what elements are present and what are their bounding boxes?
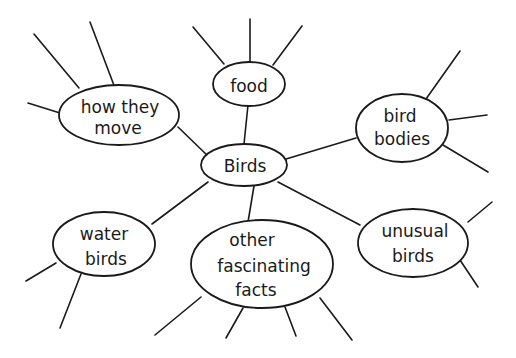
node-food: food bbox=[213, 62, 285, 106]
node-label-line: birds bbox=[392, 246, 434, 266]
edge-other-facts bbox=[248, 186, 254, 222]
node-label-line: unusual bbox=[381, 221, 448, 241]
node-unusual-birds: unusual birds bbox=[358, 209, 468, 277]
center-node-birds: Birds bbox=[201, 144, 287, 186]
node-label-line: bird bbox=[384, 106, 417, 126]
node-label-line: bodies bbox=[374, 129, 430, 149]
node-label-line: other bbox=[229, 230, 274, 250]
node-label-line: how they bbox=[81, 97, 159, 117]
edge-food bbox=[244, 105, 248, 144]
edge-bird-bodies bbox=[286, 138, 356, 159]
mind-map-canvas: Birds how they move food bird bodies wat… bbox=[0, 0, 516, 358]
edge-how-they-move bbox=[178, 127, 210, 158]
node-label-line: fascinating bbox=[217, 256, 310, 276]
node-label-line: birds bbox=[85, 249, 127, 269]
node-label-line: food bbox=[230, 76, 268, 96]
node-water-birds: water birds bbox=[53, 212, 155, 276]
node-label-line: water bbox=[80, 224, 128, 244]
node-label-line: facts bbox=[235, 280, 276, 300]
node-bird-bodies: bird bodies bbox=[356, 94, 448, 162]
node-other-fascinating-facts: other fascinating facts bbox=[191, 220, 333, 308]
edge-water-birds bbox=[152, 182, 208, 224]
center-label: Birds bbox=[224, 156, 267, 176]
node-label-line: move bbox=[94, 118, 141, 138]
edge-unusual-birds bbox=[278, 182, 360, 225]
node-how-they-move: how they move bbox=[59, 85, 179, 145]
